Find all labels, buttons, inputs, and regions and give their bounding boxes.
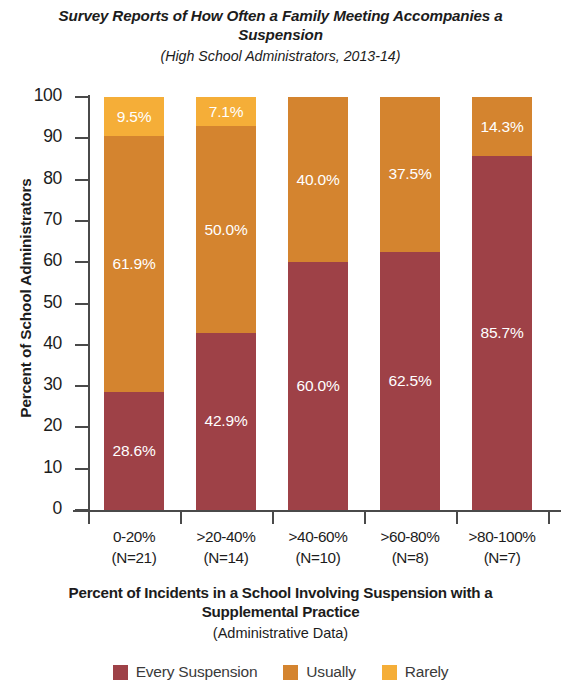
x-axis-category-range: >40-60% [289, 528, 348, 545]
bar-segment[interactable]: 9.5% [104, 97, 164, 136]
y-axis-tick [75, 468, 88, 470]
plot-area: 9.5%61.9%28.6%7.1%50.0%42.9%40.0%60.0%37… [88, 97, 548, 510]
x-axis-category-range: >60-80% [381, 528, 440, 545]
x-axis-tick [272, 512, 274, 524]
bar-column[interactable]: 37.5%62.5% [380, 97, 440, 510]
chart-subtitle: (High School Administrators, 2013-14) [0, 47, 561, 66]
bar-segment[interactable]: 60.0% [288, 262, 348, 510]
x-axis-category-label: >80-100%(N=7) [448, 526, 556, 568]
x-axis-tick [180, 512, 182, 524]
x-axis-tick [88, 512, 90, 524]
legend-label: Every Suspension [136, 663, 258, 681]
bar-column[interactable]: 9.5%61.9%28.6% [104, 97, 164, 510]
legend-label: Rarely [405, 663, 449, 681]
y-axis-tick [75, 179, 88, 181]
bar-column[interactable]: 7.1%50.0%42.9% [196, 97, 256, 510]
x-axis-tick [548, 512, 550, 524]
bar-segment[interactable]: 28.6% [104, 392, 164, 510]
x-axis-tick [456, 512, 458, 524]
bar-segment[interactable]: 7.1% [196, 97, 256, 126]
bar-segment[interactable]: 50.0% [196, 126, 256, 333]
y-axis-tick [75, 96, 88, 98]
bar-segment[interactable]: 61.9% [104, 136, 164, 392]
legend-swatch-icon [382, 665, 397, 680]
bar-segment-label: 60.0% [297, 377, 340, 395]
y-axis-tick-label: 100 [12, 85, 62, 106]
bar-segment[interactable]: 40.0% [288, 97, 348, 262]
bar-segment-label: 14.3% [481, 118, 524, 136]
bar-segment-label: 42.9% [205, 412, 248, 430]
y-axis-tick [75, 426, 88, 428]
x-axis-category-count: (N=7) [448, 547, 556, 568]
x-axis-category-range: >80-100% [469, 528, 536, 545]
y-axis-title: Percent of School Administrators [17, 133, 35, 463]
y-axis-tick [75, 344, 88, 346]
legend-item[interactable]: Every Suspension [113, 663, 258, 681]
chart-title-block: Survey Reports of How Often a Family Mee… [0, 6, 561, 66]
bar-segment[interactable]: 37.5% [380, 97, 440, 252]
x-axis-title-main: Percent of Incidents in a School Involvi… [0, 583, 561, 621]
bar-segment[interactable]: 42.9% [196, 333, 256, 510]
bar-segment-label: 37.5% [389, 165, 432, 183]
bar-segment-label: 85.7% [481, 324, 524, 342]
x-axis-line [73, 510, 561, 512]
legend-item[interactable]: Usually [283, 663, 355, 681]
bar-segment-label: 7.1% [209, 103, 244, 121]
y-axis-tick [75, 220, 88, 222]
bar-segment-label: 50.0% [205, 221, 248, 239]
y-axis-tick [75, 303, 88, 305]
y-axis-tick [75, 137, 88, 139]
chart-legend: Every SuspensionUsuallyRarely [0, 663, 561, 681]
bar-column[interactable]: 40.0%60.0% [288, 97, 348, 510]
x-axis-title-sub: (Administrative Data) [0, 624, 561, 643]
bar-segment-label: 62.5% [389, 372, 432, 390]
legend-item[interactable]: Rarely [382, 663, 449, 681]
y-axis-tick [75, 385, 88, 387]
legend-swatch-icon [283, 665, 298, 680]
bar-segment-label: 61.9% [113, 255, 156, 273]
x-axis-category-range: 0-20% [113, 528, 155, 545]
page-title: Survey Reports of How Often a Family Mee… [0, 6, 561, 44]
legend-label: Usually [306, 663, 355, 681]
x-axis-category-range: >20-40% [197, 528, 256, 545]
legend-swatch-icon [113, 665, 128, 680]
y-axis-tick [75, 261, 88, 263]
y-axis-tick [75, 509, 88, 511]
bar-segment[interactable]: 62.5% [380, 252, 440, 510]
bar-segment-label: 9.5% [117, 108, 152, 126]
y-axis-tick-label: 0 [12, 498, 62, 519]
x-axis-title: Percent of Incidents in a School Involvi… [0, 583, 561, 643]
bar-segment-label: 40.0% [297, 171, 340, 189]
bar-segment[interactable]: 85.7% [472, 156, 532, 510]
bar-segment[interactable]: 14.3% [472, 97, 532, 156]
bar-segment-label: 28.6% [113, 442, 156, 460]
x-axis-tick [364, 512, 366, 524]
bar-column[interactable]: 14.3%85.7% [472, 97, 532, 510]
